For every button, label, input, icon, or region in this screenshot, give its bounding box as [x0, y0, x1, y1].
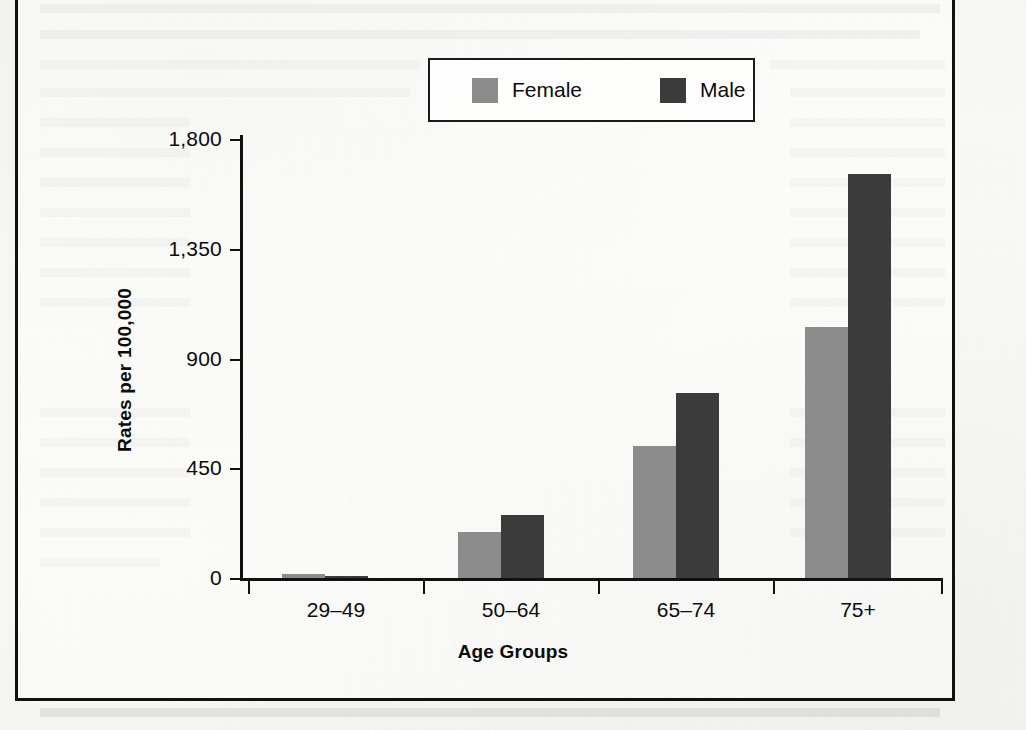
legend-item-female: Female: [472, 78, 582, 103]
legend-swatch-female-icon: [472, 78, 498, 103]
x-tick-label-29-49: 29–49: [307, 598, 365, 622]
chart-legend: Female Male: [428, 58, 755, 122]
bar-female-65-74: [633, 446, 676, 578]
bar-female-29-49: [282, 574, 325, 578]
bar-male-65-74: [676, 393, 719, 578]
x-tick-label-50-64: 50–64: [482, 598, 540, 622]
figure-root: Female Male 1,800 1,350 900 450 0 Rates …: [0, 0, 1026, 730]
bar-male-29-49: [325, 576, 368, 578]
y-tick-label-1350: 1,350: [168, 237, 222, 261]
bar-female-50-64: [458, 532, 501, 578]
y-axis-title-text: Rates per 100,000: [114, 288, 136, 452]
legend-swatch-male-icon: [660, 78, 686, 103]
plot-area: [240, 139, 945, 578]
legend-label-male: Male: [700, 78, 746, 102]
y-tick-label-450: 450: [186, 456, 222, 480]
x-tick-label-75plus: 75+: [840, 598, 876, 622]
bar-male-75plus: [848, 174, 891, 578]
bar-male-50-64: [501, 515, 544, 578]
y-tick-label-900: 900: [186, 347, 222, 371]
y-axis-title: Rates per 100,000: [103, 240, 147, 500]
x-axis-line: [240, 578, 943, 581]
bar-female-75plus: [805, 327, 848, 578]
y-tick-label-1800: 1,800: [168, 127, 222, 151]
legend-label-female: Female: [512, 78, 582, 102]
y-tick-label-0: 0: [210, 566, 222, 590]
x-tick-label-65-74: 65–74: [657, 598, 715, 622]
legend-item-male: Male: [660, 78, 746, 103]
x-axis-title: Age Groups: [0, 641, 1026, 663]
